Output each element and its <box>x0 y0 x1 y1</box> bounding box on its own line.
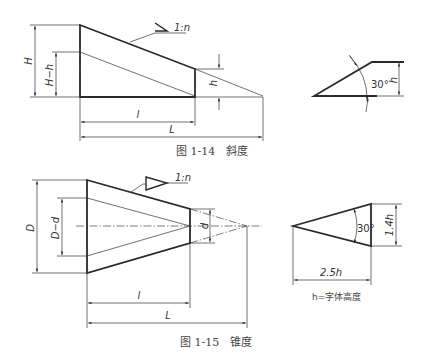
slope-symbol-icon <box>155 23 167 31</box>
angle-arrow-bottom <box>366 98 368 112</box>
label-taper-L: L <box>165 310 171 321</box>
taper-inner-top <box>87 198 190 226</box>
taper-detail-width-label: 2.5h <box>320 267 342 278</box>
slope-outline <box>80 25 195 97</box>
slope-figure: H H−h h l L 1:n 图 1-14 斜度 <box>23 22 263 158</box>
drawing-canvas: H H−h h l L 1:n 图 1-14 斜度 h 30° <box>0 0 428 361</box>
taper-detail-height-label: 1.4h <box>384 214 395 236</box>
taper-detail-angle-label: 30° <box>357 223 375 234</box>
label-taper-l: l <box>138 290 141 301</box>
slope-detail-angle-label: 30° <box>371 79 389 90</box>
label-D-minus-d: D−d <box>50 216 61 239</box>
taper-symbol-detail: 1.4h 30° 2.5h h=字体高度 <box>293 204 402 302</box>
inner-slope-line <box>80 52 195 96</box>
taper-figure: D D−d d l L 1:n 图 1-15 锥度 <box>25 172 262 349</box>
taper-ratio-label: 1:n <box>175 172 191 183</box>
taper-outline <box>87 180 190 273</box>
slope-symbol-detail: h 30° <box>314 55 404 112</box>
label-l: l <box>137 109 140 120</box>
label-d: d <box>199 222 210 229</box>
label-H-minus-h: H−h <box>44 64 55 86</box>
slope-ratio-label: 1:n <box>174 22 190 33</box>
slope-leader <box>130 33 155 42</box>
taper-inner-bottom <box>87 226 190 256</box>
font-height-note: h=字体高度 <box>312 291 361 302</box>
slope-detail-h-label: h <box>388 77 399 83</box>
angle-arc-slope <box>349 55 367 100</box>
label-h: h <box>208 80 219 86</box>
caption-fig-1-14: 图 1-14 斜度 <box>176 144 248 158</box>
caption-fig-1-15: 图 1-15 锥度 <box>180 335 252 349</box>
taper-symbol-icon <box>146 177 167 190</box>
label-H: H <box>23 57 34 65</box>
taper-leader <box>131 184 143 192</box>
label-D: D <box>25 224 36 232</box>
slope-extension-line <box>195 69 263 96</box>
angle-arrow-top <box>350 56 357 66</box>
label-L: L <box>169 124 175 135</box>
